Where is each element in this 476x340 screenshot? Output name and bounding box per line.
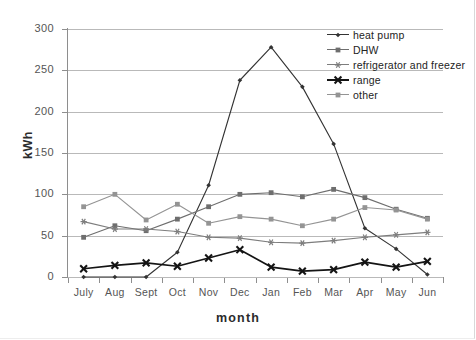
x-axis-tick-mark [131,278,132,283]
series-line [84,222,428,244]
chart-figure: kWh 050100150200250300 JulyAugSeptOctNov… [0,0,476,340]
data-point-marker [269,217,274,222]
x-axis-tick-label: Jun [404,286,450,298]
data-point-marker [237,192,242,197]
x-axis-tick-mark [256,278,257,283]
data-point-marker [175,217,180,222]
data-point-marker [206,183,211,188]
x-axis-tick-mark [224,278,225,283]
data-point-marker [336,47,341,52]
data-point-marker [336,92,341,97]
series-other [81,192,430,228]
legend-swatch-icon [327,59,349,71]
x-axis-label: month [0,311,476,325]
x-axis-tick-mark [349,278,350,283]
series-line [84,189,428,237]
data-point-marker [394,208,399,213]
data-point-marker [237,235,243,241]
legend-swatch-icon [327,74,349,86]
data-point-marker [331,217,336,222]
x-axis-tick-mark [68,278,69,283]
data-point-marker [331,142,336,147]
x-axis-tick-mark [193,278,194,283]
y-axis-tick-label: 150 [8,146,54,158]
legend-item-label: other [353,89,378,101]
data-point-marker [81,235,86,240]
legend-swatch-icon [327,29,349,41]
data-point-marker [362,205,367,210]
x-axis-tick-mark [381,278,382,283]
data-point-marker [81,275,86,280]
data-point-marker [81,204,86,209]
data-point-marker [331,187,336,192]
y-axis-tick-label: 300 [8,22,54,34]
series-line [84,194,428,225]
series-range [80,246,431,274]
data-point-marker [331,238,337,244]
data-point-marker [268,239,274,245]
legend-item-label: range [353,74,381,86]
y-axis-tick-label: 100 [8,187,54,199]
legend-swatch-icon [327,44,349,56]
y-axis-tick-label: 250 [8,63,54,75]
data-point-marker [175,202,180,207]
series-refrigerator-and-freezer [81,219,431,246]
data-point-marker [269,190,274,195]
data-point-marker [206,221,211,226]
legend-item-label: DHW [353,44,379,56]
legend-item-label: refrigerator and freezer [353,59,465,71]
legend-item-label: heat pump [353,29,404,41]
x-axis-tick-mark [318,278,319,283]
data-point-marker [362,235,368,241]
y-axis-tick-label: 50 [8,229,54,241]
data-point-marker [174,229,180,235]
data-point-marker [335,76,342,83]
data-point-marker [393,232,399,238]
data-point-marker [424,230,430,236]
y-axis-tick-label: 0 [8,270,54,282]
x-axis-tick-mark [412,278,413,283]
x-axis-tick-mark [162,278,163,283]
legend-swatch-icon [327,89,349,101]
y-axis-tick-label: 200 [8,105,54,117]
data-point-marker [113,275,118,280]
data-point-marker [336,32,341,37]
data-point-marker [144,218,149,223]
data-point-marker [81,219,87,225]
series-dhw [81,187,430,240]
series-line [84,250,428,271]
data-point-marker [112,192,117,197]
data-point-marker [300,223,305,228]
data-point-marker [299,240,305,246]
chart-legend: heat pumpDHWrefrigerator and freezerrang… [327,27,473,102]
x-axis-tick-mark [443,278,444,283]
legend-item-other[interactable]: other [327,87,473,102]
x-axis-tick-mark [99,278,100,283]
legend-item-refrigerator-and-freezer[interactable]: refrigerator and freezer [327,57,473,72]
legend-item-dhw[interactable]: DHW [327,42,473,57]
data-point-marker [206,235,212,241]
x-axis-tick-mark [287,278,288,283]
data-point-marker [206,204,211,209]
legend-item-range[interactable]: range [327,72,473,87]
data-point-marker [335,62,341,68]
data-point-marker [300,194,305,199]
data-point-marker [425,217,430,222]
data-point-marker [237,214,242,219]
legend-item-heat-pump[interactable]: heat pump [327,27,473,42]
data-point-marker [362,195,367,200]
